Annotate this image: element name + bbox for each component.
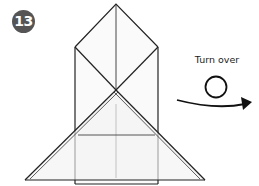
turn-over-loop-arrow-icon — [177, 77, 252, 111]
folded-paper-model — [0, 0, 259, 186]
turn-over-label: Turn over — [190, 54, 244, 65]
step-number-badge: 13 — [12, 10, 35, 33]
origami-step-diagram: 13 Turn over — [0, 0, 259, 186]
